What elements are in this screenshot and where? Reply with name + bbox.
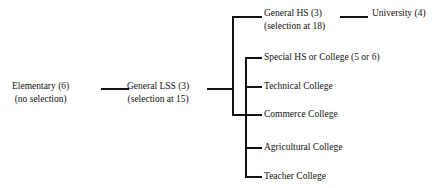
node-elementary-sublabel: (no selection): [12, 93, 69, 106]
node-general-lss-sublabel: (selection at 15): [127, 93, 189, 106]
branch-stub-commerce-college: [232, 114, 262, 116]
branch-label-technical-college: Technical College: [264, 80, 333, 92]
branch-spine-outer: [232, 16, 234, 115]
branch-stub-special-hs: [245, 57, 262, 59]
connector-lss-to-branch-spine: [207, 88, 233, 90]
node-general-hs-label: General HS (3): [264, 8, 322, 18]
branch-label-commerce-college: Commerce College: [264, 108, 338, 120]
node-general-hs-sublabel: (selection at 18): [264, 20, 325, 33]
node-elementary: Elementary (6) (no selection): [12, 80, 69, 106]
node-university-label: University (4): [372, 8, 426, 18]
node-general-lss: General LSS (3) (selection at 15): [127, 80, 189, 106]
connector-elementary-to-lss: [101, 88, 129, 90]
branch-label-teacher-college: Teacher College: [264, 170, 326, 182]
branch-stub-general-hs: [232, 16, 262, 18]
node-general-lss-label: General LSS (3): [127, 81, 189, 91]
branch-label-special-hs: Special HS or College (5 or 6): [264, 51, 380, 63]
node-university: University (4): [372, 7, 426, 20]
branch-spine-inner: [245, 57, 247, 177]
branch-stub-agricultural-college: [245, 147, 262, 149]
branch-label-agricultural-college: Agricultural College: [264, 141, 342, 153]
connector-general-hs-to-university: [340, 16, 368, 18]
branch-stub-technical-college: [245, 86, 262, 88]
node-elementary-label: Elementary (6): [12, 81, 69, 91]
branch-stub-teacher-college: [245, 176, 262, 178]
education-pathway-diagram: Elementary (6) (no selection) General LS…: [0, 0, 447, 188]
node-general-hs: General HS (3) (selection at 18): [264, 7, 325, 33]
